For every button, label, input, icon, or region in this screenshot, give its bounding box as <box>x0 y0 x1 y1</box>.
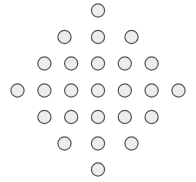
lattice-circle-20 <box>145 110 158 123</box>
lattice-circle-5 <box>65 57 78 70</box>
lattice-circle-19 <box>118 110 131 123</box>
lattice-circle-9 <box>11 84 24 97</box>
lattice-circle-15 <box>172 84 185 97</box>
lattice-circle-4 <box>38 57 51 70</box>
figure-canvas <box>0 0 196 182</box>
lattice-circle-18 <box>91 110 104 123</box>
lattice-circle-21 <box>58 137 71 150</box>
lattice-circle-17 <box>65 110 78 123</box>
lattice-circle-8 <box>145 57 158 70</box>
lattice-circle-13 <box>118 84 131 97</box>
lattice-circle-14 <box>145 84 158 97</box>
lattice-circle-6 <box>91 57 104 70</box>
lattice-circle-23 <box>125 137 138 150</box>
lattice-circle-10 <box>38 84 51 97</box>
lattice-circle-24 <box>91 163 104 176</box>
lattice-circle-22 <box>91 137 104 150</box>
lattice-circle-2 <box>91 30 104 43</box>
lattice-circle-1 <box>58 30 71 43</box>
lattice-circle-11 <box>65 84 78 97</box>
lattice-circle-12 <box>91 84 104 97</box>
lattice-circle-16 <box>38 110 51 123</box>
lattice-circle-0 <box>91 4 104 17</box>
diamond-lattice-plot <box>0 0 196 182</box>
lattice-circle-3 <box>125 30 138 43</box>
lattice-circle-7 <box>118 57 131 70</box>
